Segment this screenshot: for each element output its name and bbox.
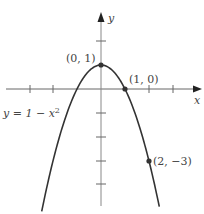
root-label: (1, 0) bbox=[129, 73, 159, 86]
y-axis-arrow-icon bbox=[98, 12, 105, 22]
equation-label: y = 1 − x2 bbox=[2, 106, 60, 120]
point-2-neg3 bbox=[146, 158, 151, 163]
point-root bbox=[122, 86, 127, 91]
x-axis-label: x bbox=[194, 94, 201, 107]
vertex-label: (0, 1) bbox=[66, 52, 96, 65]
x-axis-arrow-icon bbox=[193, 86, 202, 93]
equation-text: y = 1 − x bbox=[2, 107, 56, 120]
equation-exponent: 2 bbox=[55, 106, 60, 115]
point-vertex bbox=[98, 62, 103, 67]
graph: y x (0, 1) (1, 0) (2, −3) y = 1 − x2 bbox=[0, 0, 204, 214]
y-axis-label: y bbox=[107, 12, 115, 25]
point-label: (2, −3) bbox=[153, 155, 192, 168]
